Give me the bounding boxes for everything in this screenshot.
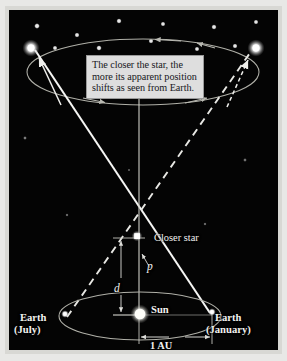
parallax-figure: Closer star Sun Earth (July) Earth (Janu…: [0, 0, 287, 361]
callout-line-1: The closer the star, the: [92, 59, 199, 71]
label-earth-january-line2: (January): [206, 324, 251, 335]
closer-star-marker: [132, 231, 143, 242]
label-earth-january-line1: Earth: [215, 312, 241, 323]
callout-line-3: shifts as seen from Earth.: [92, 82, 199, 94]
label-distance: d: [114, 282, 120, 294]
label-closer-star: Closer star: [154, 232, 199, 243]
label-earth-july-line2: (July): [14, 324, 40, 335]
label-parallax-angle: p: [147, 260, 153, 272]
distance-dimension-d: [113, 238, 145, 315]
callout-line-2: more its apparent position: [92, 71, 199, 83]
apparent-star-left: [22, 39, 39, 56]
label-earth-july-line1: Earth: [20, 312, 46, 323]
figure-plate: Closer star Sun Earth (July) Earth (Janu…: [9, 10, 278, 350]
callout-box: The closer the star, the more its appare…: [86, 55, 204, 99]
earth-july-marker: [61, 310, 69, 318]
label-baseline-1au: 1 AU: [150, 340, 172, 350]
sun-marker: [130, 304, 149, 323]
label-sun: Sun: [151, 304, 169, 315]
apparent-star-right: [247, 39, 264, 56]
